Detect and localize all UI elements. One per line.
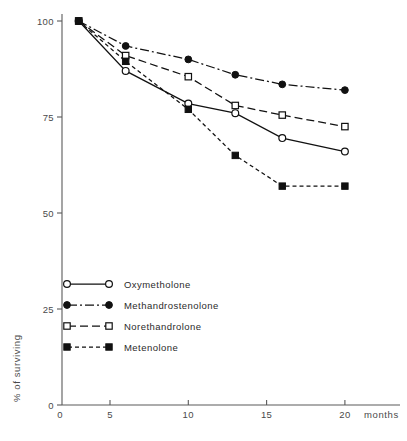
data-point-filled-square bbox=[64, 344, 70, 350]
series-line bbox=[79, 21, 345, 152]
data-point-filled-square bbox=[75, 18, 81, 24]
survival-chart: 025507510051015200months% of surviving O… bbox=[0, 0, 407, 441]
y-axis-tick-label: 75 bbox=[43, 112, 54, 123]
data-point-open-square bbox=[279, 112, 285, 118]
legend-label: Norethandrolone bbox=[124, 321, 202, 332]
data-point-filled-circle bbox=[106, 302, 113, 309]
legend-label: Metenolone bbox=[124, 342, 178, 353]
x-axis-origin-label: 0 bbox=[57, 409, 63, 420]
data-point-open-circle bbox=[342, 148, 349, 155]
x-axis-title: months bbox=[364, 409, 399, 420]
chart-canvas: 025507510051015200months% of surviving O… bbox=[0, 0, 407, 441]
data-point-filled-circle bbox=[64, 302, 71, 309]
data-point-filled-square bbox=[122, 58, 128, 64]
series-line bbox=[79, 21, 345, 127]
data-point-open-square bbox=[185, 73, 191, 79]
legend-item-metenolone[interactable]: Metenolone bbox=[64, 342, 178, 353]
y-axis-tick-label: 100 bbox=[37, 16, 54, 27]
data-point-filled-circle bbox=[232, 71, 239, 78]
y-axis-title: % of surviving bbox=[11, 334, 22, 402]
x-axis-tick-label: 20 bbox=[339, 409, 350, 420]
data-series bbox=[75, 18, 348, 190]
data-point-filled-square bbox=[232, 152, 238, 158]
data-point-open-square bbox=[106, 323, 112, 329]
data-point-filled-square bbox=[185, 106, 191, 112]
data-point-filled-circle bbox=[342, 87, 349, 94]
series-line bbox=[79, 21, 345, 186]
data-point-filled-circle bbox=[279, 81, 286, 88]
data-point-filled-square bbox=[106, 344, 112, 350]
data-point-open-square bbox=[232, 102, 238, 108]
y-axis-tick-label: 50 bbox=[43, 208, 54, 219]
data-point-open-circle bbox=[64, 281, 71, 288]
series-norethandrolone bbox=[75, 18, 348, 130]
chart-legend: OxymetholoneMethandrostenoloneNorethandr… bbox=[64, 279, 219, 353]
data-point-open-square bbox=[342, 123, 348, 129]
series-methandrostenolone bbox=[75, 18, 348, 94]
data-point-filled-circle bbox=[122, 43, 129, 50]
y-axis-tick-label: 0 bbox=[48, 400, 54, 411]
legend-label: Oxymetholone bbox=[124, 279, 191, 290]
x-axis-tick-label: 5 bbox=[107, 409, 113, 420]
data-point-filled-circle bbox=[185, 56, 192, 63]
legend-item-oxymetholone[interactable]: Oxymetholone bbox=[64, 279, 191, 290]
legend-label: Methandrostenolone bbox=[124, 300, 219, 311]
legend-item-norethandrolone[interactable]: Norethandrolone bbox=[64, 321, 202, 332]
data-point-open-square bbox=[64, 323, 70, 329]
data-point-open-circle bbox=[106, 281, 113, 288]
data-point-open-circle bbox=[122, 68, 129, 75]
x-axis-tick-label: 15 bbox=[261, 409, 272, 420]
data-point-open-circle bbox=[232, 110, 239, 117]
data-point-filled-square bbox=[279, 183, 285, 189]
legend-item-methandrostenolone[interactable]: Methandrostenolone bbox=[64, 300, 219, 311]
axes: 025507510051015200months% of surviving bbox=[11, 14, 400, 420]
x-axis-tick-label: 10 bbox=[183, 409, 194, 420]
y-axis-tick-label: 25 bbox=[43, 304, 54, 315]
data-point-filled-square bbox=[342, 183, 348, 189]
series-metenolone bbox=[75, 18, 348, 190]
data-point-open-circle bbox=[279, 135, 286, 142]
